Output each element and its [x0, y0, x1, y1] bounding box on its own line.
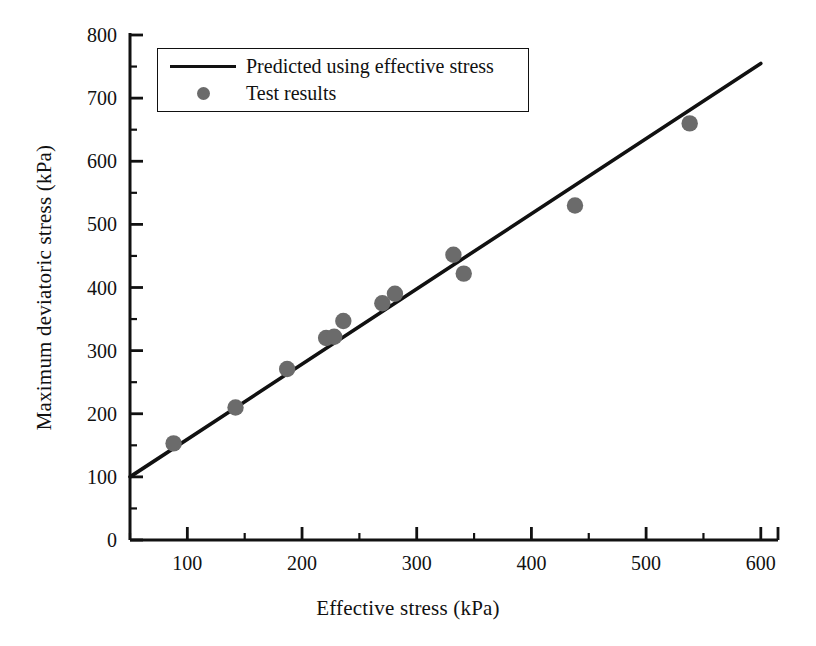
y-axis-title: Maximum deviatoric stress (kPa)	[32, 145, 57, 431]
data-point	[387, 286, 403, 302]
y-tick-label: 800	[55, 24, 117, 47]
x-tick-label: 300	[402, 552, 432, 575]
x-tick-label: 600	[746, 552, 776, 575]
y-tick-label: 700	[55, 87, 117, 110]
x-tick-label: 200	[287, 552, 317, 575]
legend-label-test-results: Test results	[240, 82, 336, 105]
data-point	[326, 329, 342, 345]
legend: Predicted using effective stress Test re…	[157, 48, 529, 112]
chart-figure: Maximum deviatoric stress (kPa) Effectiv…	[0, 0, 816, 646]
legend-item-test-results: Test results	[166, 80, 518, 107]
y-tick-label: 200	[55, 402, 117, 425]
y-tick-label: 400	[55, 276, 117, 299]
data-point	[279, 361, 295, 377]
legend-label-predicted: Predicted using effective stress	[240, 55, 494, 78]
data-point	[227, 399, 243, 415]
x-tick-label: 400	[516, 552, 546, 575]
y-tick-label: 500	[55, 213, 117, 236]
data-point	[681, 115, 697, 131]
y-tick-label: 0	[55, 529, 117, 552]
legend-item-predicted: Predicted using effective stress	[166, 53, 518, 80]
line-swatch-icon	[166, 65, 240, 68]
data-point	[165, 435, 181, 451]
data-point	[335, 313, 351, 329]
dot-swatch-icon	[166, 87, 240, 100]
x-tick-label: 100	[172, 552, 202, 575]
data-point	[456, 265, 472, 281]
prediction-line	[130, 63, 761, 476]
data-point	[567, 197, 583, 213]
data-point	[445, 246, 461, 262]
y-tick-label: 600	[55, 150, 117, 173]
y-tick-label: 100	[55, 465, 117, 488]
x-tick-label: 500	[631, 552, 661, 575]
y-tick-label: 300	[55, 339, 117, 362]
x-axis-title: Effective stress (kPa)	[0, 596, 816, 621]
